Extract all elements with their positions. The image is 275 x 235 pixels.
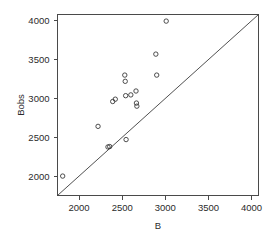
y-tick-label-2500: 2500 [28, 132, 49, 143]
data-point [96, 124, 100, 128]
y-tick-label-4000: 4000 [28, 15, 49, 26]
data-point [123, 79, 127, 83]
data-point [164, 19, 168, 23]
x-tick-label-2000: 2000 [68, 202, 89, 213]
x-axis-tick-labels: 20002500300035004000 [68, 202, 262, 213]
data-point [123, 93, 127, 97]
scatter-plot-figure: 20002500300035004000 2000250030003500400… [0, 0, 275, 235]
data-point [155, 73, 159, 77]
y-axis-ticks [54, 21, 58, 176]
y-tick-label-3000: 3000 [28, 93, 49, 104]
data-point [60, 174, 64, 178]
y-axis-tick-labels: 20002500300035004000 [28, 15, 49, 181]
x-axis-ticks [79, 196, 252, 200]
x-tick-label-4000: 4000 [241, 202, 262, 213]
data-point [135, 104, 139, 108]
data-point [154, 52, 158, 56]
x-axis-title: B [155, 220, 161, 231]
x-tick-label-2500: 2500 [112, 202, 133, 213]
plot-canvas: 20002500300035004000 2000250030003500400… [0, 0, 275, 235]
data-point [124, 137, 128, 141]
y-axis-title: Bobs [15, 94, 26, 116]
data-point-series [60, 19, 168, 178]
y-tick-label-2000: 2000 [28, 171, 49, 182]
data-point [129, 93, 133, 97]
data-point [134, 89, 138, 93]
x-tick-label-3500: 3500 [198, 202, 219, 213]
identity-reference-line [58, 15, 259, 196]
y-tick-label-3500: 3500 [28, 54, 49, 65]
data-point [123, 73, 127, 77]
x-tick-label-3000: 3000 [155, 202, 176, 213]
